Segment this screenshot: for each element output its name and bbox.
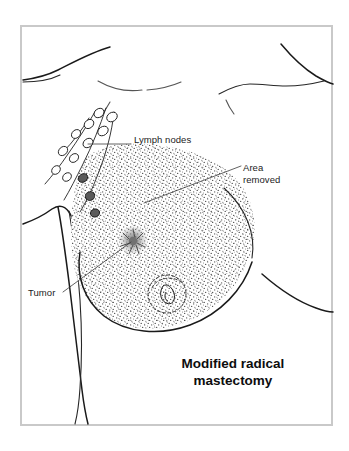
- tumor-mass: [118, 225, 148, 255]
- left-shoulder-clavicle-line: [23, 47, 110, 80]
- opposite-breast-underside: [262, 274, 333, 312]
- figure-title-line-2: mastectomy: [194, 373, 273, 388]
- label-lymph-nodes: Lymph nodes: [134, 134, 191, 146]
- medical-illustration-figure: Lymph nodes Area removed Tumor Modified …: [0, 0, 349, 451]
- lymph-node: [92, 106, 106, 119]
- right-clavicle-lower-line: [219, 81, 324, 94]
- right-neck-fold: [226, 100, 234, 114]
- lymph-node: [61, 171, 73, 183]
- lymph-node: [105, 110, 119, 124]
- label-area-removed-line-1: Area: [243, 162, 263, 173]
- label-area-removed: Area removed: [243, 162, 313, 185]
- sternal-notch-arc: [98, 81, 142, 91]
- lymph-node: [70, 128, 83, 140]
- sternal-notch-arc-right: [147, 82, 181, 90]
- lymph-node: [96, 124, 110, 138]
- label-area-removed-line-2: removed: [243, 174, 280, 185]
- lymph-node: [82, 118, 95, 131]
- lymph-node: [81, 136, 95, 149]
- upper-torso-contours: [23, 44, 333, 117]
- right-shoulder-clavicle-line: [281, 44, 333, 84]
- lymph-node: [56, 145, 69, 158]
- lymph-node: [68, 152, 81, 164]
- figure-title-line-1: Modified radical: [182, 356, 285, 371]
- label-tumor: Tumor: [28, 287, 55, 299]
- figure-title: Modified radical mastectomy: [148, 356, 318, 389]
